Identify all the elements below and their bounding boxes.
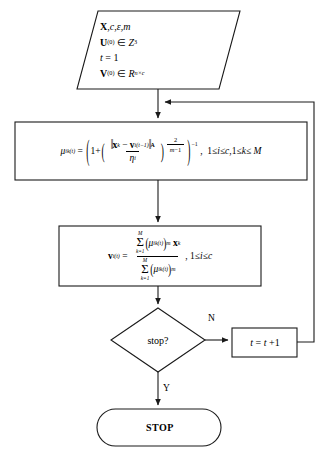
stop-decision-node-shape: [111, 308, 205, 372]
stop-terminal-node-shape: [97, 409, 221, 446]
flowchart-canvas: X,c,ε,m U(0) ∈ Z3 t = 1 V(0) ∈ Rn×c μik(…: [0, 0, 323, 452]
input-node-shape: [77, 11, 240, 89]
centroid-update-node-shape: [59, 226, 261, 286]
membership-update-node-shape: [15, 122, 307, 180]
increment-node-shape: [232, 328, 297, 357]
flowchart-shapes: [0, 0, 323, 452]
